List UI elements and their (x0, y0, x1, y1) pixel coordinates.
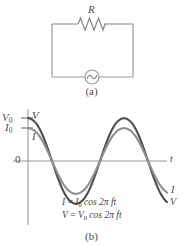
equation-voltage: V = V0 cos 2π ft (62, 210, 122, 221)
equation-current-rest: cos 2π ft (84, 197, 116, 207)
resistor-icon (78, 18, 107, 30)
panel-a-circuit: R (a) (0, 0, 183, 100)
curve-label-v-top: V (32, 110, 39, 121)
curve-label-v-right: V (170, 197, 176, 207)
resistor-label: R (88, 4, 95, 15)
y-label-zero: 0 (15, 154, 21, 165)
panel-b-graph: V0 I0 0 t V I I V I = I0 cos 2π ft V = V… (0, 100, 183, 245)
equation-current-amplitude-subscript: 0 (78, 201, 81, 208)
equation-current-lhs: I (62, 197, 65, 207)
equation-current: I = I0 cos 2π ft (62, 197, 116, 208)
y-label-i0: I0 (5, 122, 12, 134)
curve-label-i-top: I (32, 131, 36, 142)
curve-label-i-right: I (171, 185, 174, 195)
panel-b-caption: (b) (0, 230, 183, 242)
equation-voltage-lhs: V (62, 210, 68, 220)
equation-voltage-amplitude-subscript: 0 (84, 214, 87, 221)
ac-sine-glyph-icon (87, 75, 97, 79)
y-label-i0-subscript: 0 (9, 126, 13, 135)
figure-ac-resistor: R (a) V0 I0 0 t V I (0, 0, 183, 245)
equation-voltage-rest: cos 2π ft (89, 210, 121, 220)
x-axis-label-t: t (170, 154, 173, 164)
waveform-plot (0, 100, 183, 245)
panel-a-caption: (a) (0, 85, 183, 97)
